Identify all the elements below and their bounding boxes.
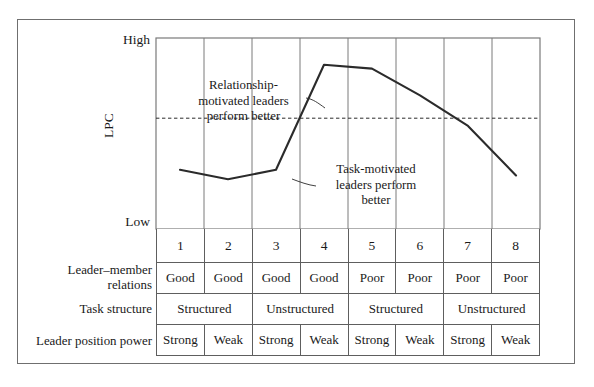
cell-position-power: Strong — [252, 325, 300, 356]
annotation-line: perform better — [179, 109, 308, 125]
cell-relations: Poor — [348, 263, 396, 294]
row-label-leader-member-relations: Leader–member relations — [20, 262, 152, 294]
annotation-line: Relationship- — [179, 78, 308, 94]
octant-number-cell: 6 — [396, 229, 444, 263]
cell-task-structure: Structured — [157, 294, 253, 325]
annotation-relationship-motivated: Relationship- motivated leaders perform … — [179, 78, 308, 125]
octant-number-cell: 5 — [348, 229, 396, 263]
annotation-line: leaders perform — [318, 178, 434, 194]
cell-position-power: Weak — [204, 325, 252, 356]
cell-relations: Poor — [396, 263, 444, 294]
octant-number-cell: 2 — [204, 229, 252, 263]
annotation-line: better — [318, 193, 434, 209]
y-axis-title: LPC — [101, 109, 116, 143]
cell-relations: Good — [204, 263, 252, 294]
cell-task-structure: Unstructured — [252, 294, 348, 325]
octant-number-cell: 1 — [157, 229, 205, 263]
cell-task-structure: Unstructured — [444, 294, 540, 325]
annotation-line: motivated leaders — [179, 94, 308, 110]
y-axis-high-label: High — [96, 32, 150, 47]
octant-number-cell: 3 — [252, 229, 300, 263]
cell-position-power: Strong — [444, 325, 492, 356]
cell-relations: Poor — [492, 263, 540, 294]
table-row-leader-member-relations: Good Good Good Good Poor Poor Poor Poor — [157, 263, 540, 294]
cell-relations: Good — [252, 263, 300, 294]
octant-number-cell: 7 — [444, 229, 492, 263]
octant-grid: 1 2 3 4 5 6 7 8 Good Good Good Good Poor… — [156, 229, 540, 356]
cell-relations: Good — [300, 263, 348, 294]
annotation-line: Task-motivated — [318, 162, 434, 178]
cell-position-power: Weak — [300, 325, 348, 356]
annotation-leader-line-task — [292, 179, 316, 186]
octant-number-cell: 4 — [300, 229, 348, 263]
octant-table: 1 2 3 4 5 6 7 8 Good Good Good Good Poor… — [156, 229, 540, 356]
cell-relations: Poor — [444, 263, 492, 294]
cell-position-power: Strong — [157, 325, 205, 356]
cell-task-structure: Structured — [348, 294, 444, 325]
row-label-leader-position-power: Leader position power — [20, 325, 152, 358]
octant-table-body: 1 2 3 4 5 6 7 8 Good Good Good Good Poor… — [157, 229, 540, 356]
y-axis-low-label: Low — [96, 214, 150, 229]
octant-number-cell: 8 — [492, 229, 540, 263]
cell-position-power: Strong — [348, 325, 396, 356]
table-row-leader-position-power: Strong Weak Strong Weak Strong Weak Stro… — [157, 325, 540, 356]
table-row-task-structure: Structured Unstructured Structured Unstr… — [157, 294, 540, 325]
cell-position-power: Weak — [396, 325, 444, 356]
cell-relations: Good — [157, 263, 205, 294]
row-label-task-structure: Task structure — [20, 294, 152, 325]
table-row-octant-numbers: 1 2 3 4 5 6 7 8 — [157, 229, 540, 263]
figure-container: High Low LPC Relationship- motivated lea… — [0, 0, 594, 387]
annotation-task-motivated: Task-motivated leaders perform better — [318, 162, 434, 209]
cell-position-power: Weak — [492, 325, 540, 356]
